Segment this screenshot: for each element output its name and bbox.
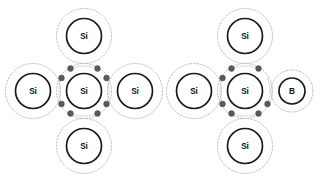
electron-top-right [256, 66, 262, 72]
electron-left-bottom [59, 101, 65, 107]
electron-bottom-left [68, 111, 74, 117]
intrinsic-silicon-diagram: Si Si Si Si Si [0, 0, 165, 181]
bond-arc-top [232, 66, 259, 69]
boron-doped-silicon-diagram: Si Si Si B Si [166, 0, 331, 181]
atom-label-top: Si [80, 32, 88, 41]
bond-arc-bottom [232, 114, 259, 117]
diagram-canvas: Si Si Si Si Si [0, 0, 331, 181]
atom-label-top: Si [241, 32, 249, 41]
atom-label-center: Si [241, 87, 249, 96]
atom-label-left: Si [190, 87, 198, 96]
bond-arc-dopant [268, 78, 271, 104]
atom-label-left: Si [29, 87, 37, 96]
electron-right-bottom [104, 101, 110, 107]
electron-bottom-right [256, 111, 262, 117]
atom-label-dopant: B [289, 87, 295, 96]
boron-doped-silicon-svg: Si Si Si B Si [166, 0, 331, 181]
electron-bottom-right [95, 111, 101, 117]
electron-left-top [59, 75, 65, 81]
atom-label-bottom: Si [80, 142, 88, 151]
electron-top-left [68, 66, 74, 72]
electron-dopant-bottom [265, 101, 271, 107]
intrinsic-silicon-svg: Si Si Si Si Si [0, 0, 165, 181]
bond-arc-top [71, 66, 98, 69]
atom-label-center: Si [80, 87, 88, 96]
atom-label-right: Si [131, 87, 139, 96]
electron-bottom-left [229, 111, 235, 117]
electron-top-right [95, 66, 101, 72]
electron-left-top [220, 75, 226, 81]
electron-top-left [229, 66, 235, 72]
electron-right-top [104, 75, 110, 81]
electron-left-bottom [220, 101, 226, 107]
bond-arc-bottom [71, 114, 98, 117]
atom-label-bottom: Si [241, 142, 249, 151]
